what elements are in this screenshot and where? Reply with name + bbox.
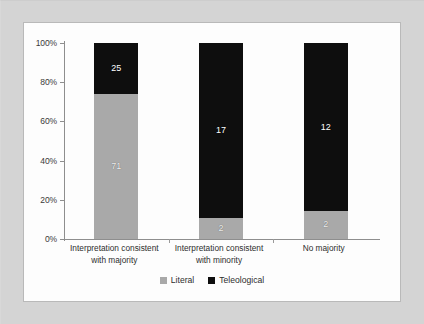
bar-stack: 7125 bbox=[94, 43, 138, 239]
bar-segment-literal[interactable]: 2 bbox=[304, 211, 348, 239]
chart-legend: LiteralTeleological bbox=[24, 276, 400, 285]
bar-value-label: 2 bbox=[218, 224, 223, 233]
bar-value-label: 2 bbox=[323, 220, 328, 229]
bar-value-label: 12 bbox=[321, 123, 331, 132]
bar-group[interactable]: 217 bbox=[199, 43, 243, 239]
y-axis-tick-label: 100% bbox=[36, 38, 57, 48]
bar-group[interactable]: 7125 bbox=[94, 43, 138, 239]
bar-stack: 212 bbox=[304, 43, 348, 239]
y-axis-tick-label: 40% bbox=[40, 156, 57, 166]
plot-area: 0%20%40%60%80%100% 7125217212 bbox=[64, 43, 378, 239]
x-axis-line bbox=[62, 239, 380, 240]
y-axis-tick-label: 60% bbox=[40, 116, 57, 126]
y-axis-line bbox=[64, 41, 65, 241]
x-axis-category-label: No majority bbox=[268, 243, 380, 255]
legend-swatch-icon bbox=[208, 277, 215, 284]
y-axis-tick-label: 20% bbox=[40, 195, 57, 205]
bar-value-label: 17 bbox=[216, 126, 226, 135]
y-axis-tick bbox=[60, 200, 64, 201]
bar-stack: 217 bbox=[199, 43, 243, 239]
bar-segment-teleological[interactable]: 17 bbox=[199, 43, 243, 218]
figure-root: 0%20%40%60%80%100% 7125217212 Interpreta… bbox=[0, 0, 424, 324]
chart-panel: 0%20%40%60%80%100% 7125217212 Interpreta… bbox=[23, 22, 401, 302]
y-axis-tick bbox=[60, 43, 64, 44]
legend-item[interactable]: Literal bbox=[160, 276, 194, 285]
bar-value-label: 25 bbox=[111, 64, 121, 73]
y-axis-tick-label: 0% bbox=[45, 234, 57, 244]
x-axis-category-labels: Interpretation consistentwith majorityIn… bbox=[62, 243, 380, 277]
legend-item[interactable]: Teleological bbox=[208, 276, 264, 285]
x-axis-category-label: Interpretation consistentwith minority bbox=[163, 243, 275, 266]
y-axis-tick bbox=[60, 239, 64, 240]
y-axis-tick-label: 80% bbox=[40, 77, 57, 87]
bar-group[interactable]: 212 bbox=[304, 43, 348, 239]
bar-segment-teleological[interactable]: 25 bbox=[94, 43, 138, 94]
y-axis-tick bbox=[60, 82, 64, 83]
bar-segment-literal[interactable]: 71 bbox=[94, 94, 138, 239]
y-axis-tick bbox=[60, 161, 64, 162]
bar-segment-teleological[interactable]: 12 bbox=[304, 43, 348, 211]
bar-segment-literal[interactable]: 2 bbox=[199, 218, 243, 239]
bar-value-label: 71 bbox=[111, 162, 121, 171]
y-axis-tick bbox=[60, 121, 64, 122]
legend-swatch-icon bbox=[160, 277, 167, 284]
legend-label: Literal bbox=[171, 276, 194, 285]
x-axis-category-label: Interpretation consistentwith majority bbox=[58, 243, 170, 266]
legend-label: Teleological bbox=[219, 276, 264, 285]
